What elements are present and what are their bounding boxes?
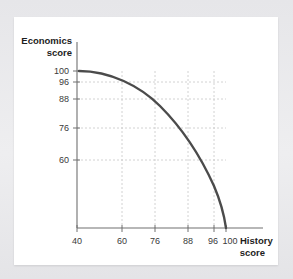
x-axis-title: History score (240, 235, 274, 258)
x-tick-label-88: 88 (183, 236, 193, 246)
horizontal-gridlines (77, 82, 226, 160)
y-tick-label-96: 96 (59, 77, 69, 87)
ppf-curve (79, 71, 226, 228)
x-tick-label-76: 76 (150, 236, 160, 246)
ppf-chart: 100 96 88 76 60 40 60 76 88 96 100 Econo… (0, 0, 293, 279)
vertical-gridlines (122, 71, 214, 228)
x-axis-title-line1: History (240, 235, 273, 246)
x-tick-label-100: 100 (222, 236, 237, 246)
y-axis-title-line1: Economics (21, 35, 72, 46)
x-axis-title-line2: score (240, 247, 265, 258)
y-tick-labels: 100 96 88 76 60 (54, 66, 69, 165)
y-tick-label-88: 88 (59, 94, 69, 104)
y-tick-label-60: 60 (59, 155, 69, 165)
y-axis-title: Economics score (21, 35, 72, 58)
y-axis-title-line2: score (47, 47, 72, 58)
x-tick-label-60: 60 (117, 236, 127, 246)
x-tick-labels: 40 60 76 88 96 100 (72, 236, 238, 246)
y-tick-label-100: 100 (54, 66, 69, 76)
x-tick-label-96: 96 (208, 236, 218, 246)
x-tick-label-40: 40 (72, 236, 82, 246)
y-tick-label-76: 76 (59, 123, 69, 133)
